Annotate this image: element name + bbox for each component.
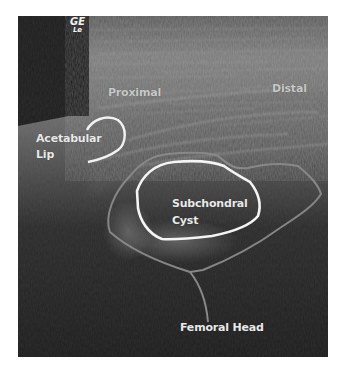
logo-line1: GE — [70, 18, 85, 26]
label-subchondral: Subchondral — [172, 197, 248, 210]
label-femoral-head: Femoral Head — [180, 321, 264, 334]
label-cyst: Cyst — [172, 214, 198, 227]
ultrasound-image: GE Le Proximal Distal Acetabular Lip Sub… — [18, 16, 328, 357]
label-distal: Distal — [272, 82, 307, 95]
ge-logo: GE Le — [70, 18, 85, 34]
label-proximal: Proximal — [108, 86, 161, 99]
ultrasound-graphic — [18, 16, 328, 357]
logo-line2: Le — [70, 26, 85, 34]
label-acetabular-line2: Lip — [36, 148, 54, 161]
label-acetabular-line1: Acetabular — [36, 132, 102, 145]
